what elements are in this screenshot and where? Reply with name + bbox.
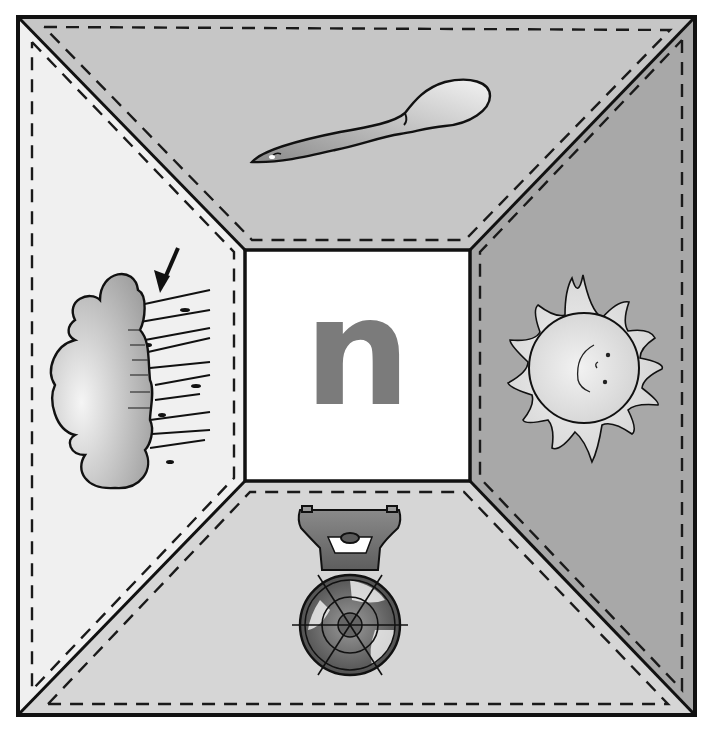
sun-disc — [529, 313, 639, 423]
center-letter: n — [245, 250, 470, 481]
